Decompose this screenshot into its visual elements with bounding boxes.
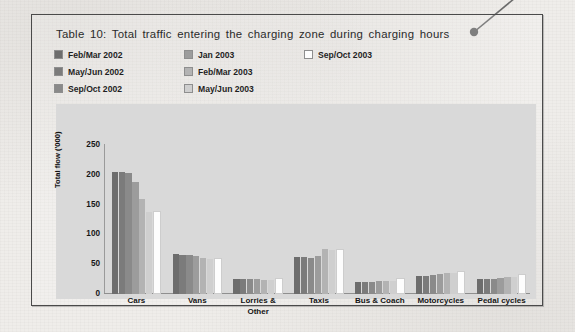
legend-swatch-icon (54, 67, 63, 76)
legend-item[interactable]: May/Jun 2002 (54, 64, 124, 79)
bar[interactable] (139, 199, 145, 294)
bar[interactable] (444, 273, 450, 294)
category-label-line1: Bus & Coach (349, 296, 410, 307)
bar[interactable] (396, 278, 404, 294)
category-label: Motorcycles (410, 296, 471, 317)
legend-item-label: Sep/Oct 2003 (318, 50, 372, 60)
bar[interactable] (153, 211, 161, 294)
bar[interactable] (186, 255, 192, 294)
bar-group (289, 144, 350, 294)
legend-swatch-icon (184, 50, 193, 59)
y-tick-label: 100 (86, 229, 100, 238)
category-label: Taxis (289, 296, 350, 317)
category-label-line1: Pedal cycles (471, 296, 532, 307)
bar[interactable] (200, 258, 206, 294)
y-axis-line (104, 144, 105, 294)
legend-swatch-icon (184, 67, 193, 76)
bar-group (228, 144, 289, 294)
legend-swatch-icon (54, 50, 63, 59)
bar-group (167, 144, 228, 294)
y-tick-label: 50 (91, 259, 100, 268)
legend-item[interactable]: May/Jun 2003 (184, 81, 254, 96)
bar[interactable] (423, 276, 429, 294)
legend-column-3: Sep/Oct 2003 (304, 47, 372, 64)
bar[interactable] (355, 282, 361, 294)
bar[interactable] (336, 249, 344, 295)
legend-column-2: Jan 2003Feb/Mar 2003May/Jun 2003 (184, 47, 254, 98)
legend-item[interactable]: Jan 2003 (184, 47, 254, 62)
legend-item-label: May/Jun 2002 (68, 67, 124, 77)
bar[interactable] (437, 274, 443, 294)
category-label: Vans (167, 296, 228, 317)
bar[interactable] (261, 280, 267, 294)
bar[interactable] (125, 173, 131, 294)
bar[interactable] (240, 279, 246, 294)
bar[interactable] (207, 259, 213, 294)
category-label: Pedal cycles (471, 296, 532, 317)
bar[interactable] (491, 279, 497, 294)
legend-item[interactable]: Sep/Oct 2003 (304, 47, 372, 62)
bar[interactable] (308, 258, 314, 294)
y-tick-label: 200 (86, 169, 100, 178)
y-tick-label: 150 (86, 199, 100, 208)
y-tick-label: 250 (86, 140, 100, 149)
bar[interactable] (275, 278, 283, 294)
bar[interactable] (518, 274, 526, 294)
bar[interactable] (268, 280, 274, 294)
legend-item[interactable]: Sep/Oct 2002 (54, 81, 124, 96)
category-label-line1: Vans (167, 296, 228, 307)
bar[interactable] (390, 281, 396, 294)
plot-panel: Total flow ('000) 050100150200250 CarsVa… (56, 104, 536, 299)
bar[interactable] (450, 273, 456, 294)
bar[interactable] (112, 172, 118, 294)
x-axis-category-labels: CarsVansLorries &OtherTaxisBus & CoachMo… (106, 296, 532, 317)
legend-item-label: Feb/Mar 2002 (68, 50, 122, 60)
bar[interactable] (193, 256, 199, 294)
bar[interactable] (484, 279, 490, 294)
bar[interactable] (173, 254, 179, 294)
bar[interactable] (329, 250, 335, 294)
category-label-line2: Other (228, 307, 289, 318)
bar[interactable] (497, 278, 503, 294)
bar[interactable] (477, 279, 483, 294)
category-label: Lorries &Other (228, 296, 289, 317)
bar-groups (106, 144, 532, 294)
bar[interactable] (301, 257, 307, 294)
legend-swatch-icon (184, 84, 193, 93)
legend-item-label: Sep/Oct 2002 (68, 84, 122, 94)
legend-item-label: May/Jun 2003 (198, 84, 254, 94)
figure-frame: Table 10: Total traffic entering the cha… (31, 14, 543, 306)
bar[interactable] (376, 281, 382, 294)
bar[interactable] (146, 212, 152, 294)
bar[interactable] (254, 279, 260, 294)
bar-group (106, 144, 167, 294)
bar[interactable] (294, 257, 300, 294)
bar[interactable] (369, 282, 375, 294)
legend-swatch-icon (54, 84, 63, 93)
bar[interactable] (383, 281, 389, 294)
bar[interactable] (504, 277, 510, 294)
bar[interactable] (315, 256, 321, 294)
bar[interactable] (132, 182, 138, 294)
bar[interactable] (416, 276, 422, 294)
bar[interactable] (457, 271, 465, 294)
y-axis-ticks: 050100150200250 (74, 144, 100, 293)
bar[interactable] (322, 249, 328, 294)
bar[interactable] (233, 279, 239, 294)
legend-item-label: Jan 2003 (198, 50, 234, 60)
legend-item[interactable]: Feb/Mar 2002 (54, 47, 124, 62)
bar[interactable] (511, 277, 517, 294)
bar[interactable] (430, 275, 436, 294)
bar-group (349, 144, 410, 294)
bar[interactable] (247, 279, 253, 294)
category-label: Bus & Coach (349, 296, 410, 317)
bar[interactable] (119, 172, 125, 294)
bar[interactable] (179, 255, 185, 294)
bar[interactable] (214, 258, 222, 294)
category-label-line1: Lorries & (228, 296, 289, 307)
legend-item[interactable]: Feb/Mar 2003 (184, 64, 254, 79)
bar[interactable] (362, 282, 368, 294)
legend-column-1: Feb/Mar 2002May/Jun 2002Sep/Oct 2002 (54, 47, 124, 98)
bar-group (471, 144, 532, 294)
legend-swatch-icon (304, 50, 313, 59)
